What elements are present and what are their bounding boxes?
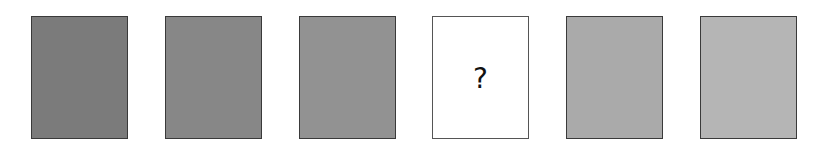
gray-card-6: [700, 16, 797, 139]
gray-card-2: [165, 16, 262, 139]
gray-card-3: [299, 16, 396, 139]
question-mark-icon: ?: [473, 65, 488, 93]
gray-card-5: [566, 16, 663, 139]
unknown-card: ?: [432, 16, 529, 139]
gray-card-1: [31, 16, 128, 139]
